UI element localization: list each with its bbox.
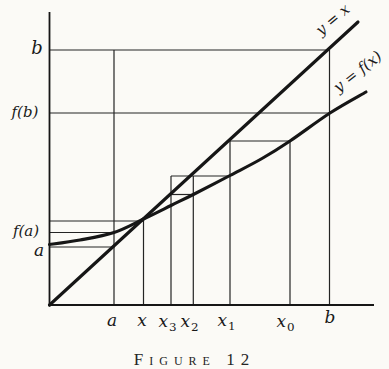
y-axis-label-fa: f(a)	[13, 224, 39, 239]
x-axis-label-x0-subscript: 0	[287, 320, 295, 334]
identity-line-y-equals-x	[50, 22, 359, 305]
x-axis-label-a: a	[107, 312, 117, 329]
figure-caption: Figure 12	[134, 350, 255, 369]
y-axis-label-b: b	[31, 39, 43, 57]
x-axis-label-x3-subscript: 3	[169, 320, 177, 334]
x-axis-label-b: b	[325, 309, 336, 326]
x-axis-label-x1: x1	[217, 312, 234, 329]
x-axis-label-x0: x0	[276, 313, 293, 330]
x-axis-label-x2-subscript: 2	[191, 320, 199, 334]
x-axis-label-x: x	[137, 312, 147, 329]
function-curve-y-equals-fx	[50, 92, 367, 245]
x-axis-label-x1-subscript: 1	[228, 319, 236, 333]
x-axis-label-x2: x2	[180, 313, 197, 330]
y-axis-label-a: a	[34, 242, 44, 259]
x-axis-label-x3: x3	[158, 313, 175, 330]
y-axis-label-fb: f(b)	[12, 105, 39, 120]
